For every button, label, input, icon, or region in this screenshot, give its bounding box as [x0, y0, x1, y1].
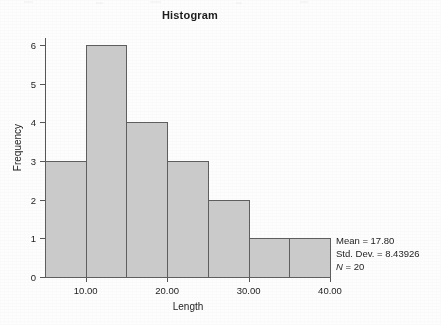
- histogram-bar: [167, 161, 209, 278]
- y-tick-label: 2: [0, 194, 36, 205]
- plot-area: 0123456 10.0020.0030.0040.00 Length Freq…: [0, 0, 441, 325]
- y-tick-label: 1: [0, 233, 36, 244]
- y-tick: [40, 45, 45, 46]
- y-tick: [40, 122, 45, 123]
- x-tick-label: 40.00: [318, 285, 342, 296]
- histogram-bar: [126, 122, 168, 278]
- y-axis-title: Frequency: [12, 103, 23, 193]
- stddev-line: Std. Dev. = 8.43926: [336, 247, 420, 260]
- mean-line: Mean = 17.80: [336, 234, 420, 247]
- histogram-bar: [289, 238, 331, 278]
- statistics-annotation: Mean = 17.80 Std. Dev. = 8.43926 N = 20: [336, 234, 420, 274]
- sample-size-line: N = 20: [336, 260, 420, 273]
- y-tick-label: 0: [0, 272, 36, 283]
- histogram-bar: [249, 238, 291, 278]
- n-value: = 20: [343, 261, 364, 272]
- y-tick-label: 5: [0, 78, 36, 89]
- n-symbol: N: [336, 261, 343, 272]
- histogram-bar: [45, 161, 87, 278]
- x-tick-label: 20.00: [155, 285, 179, 296]
- y-tick-label: 6: [0, 40, 36, 51]
- histogram-bar: [208, 200, 250, 278]
- x-axis-title: Length: [0, 301, 376, 312]
- histogram-screenshot: Histogram 0123456 10.0020.0030.0040.00 L…: [0, 0, 441, 325]
- y-tick: [40, 84, 45, 85]
- x-tick-label: 30.00: [237, 285, 261, 296]
- histogram-bar: [86, 45, 128, 278]
- x-tick-label: 10.00: [74, 285, 98, 296]
